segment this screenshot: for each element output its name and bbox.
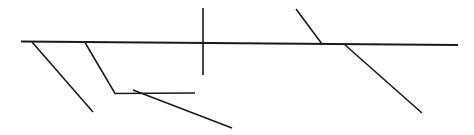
line-sketch-figure (0, 0, 474, 135)
drawing-canvas (0, 0, 474, 135)
figure-background (0, 0, 474, 135)
